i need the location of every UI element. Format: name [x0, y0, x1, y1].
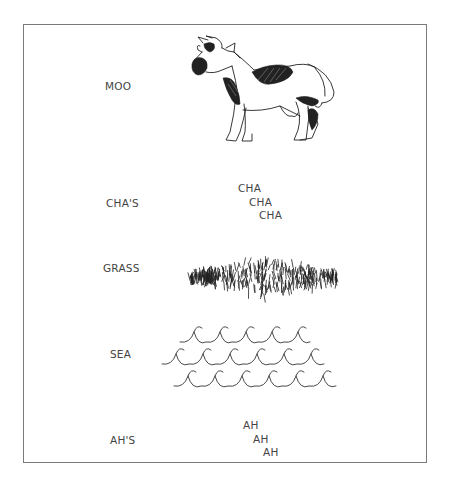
- cow-icon: [0, 0, 450, 488]
- ah-3: AH: [263, 446, 278, 458]
- ah-2: AH: [253, 433, 268, 445]
- grass-icon: [190, 250, 340, 302]
- waves-icon: [160, 322, 345, 394]
- label-ahs: AH'S: [110, 434, 135, 446]
- label-chas: CHA'S: [106, 197, 139, 209]
- cha-3: CHA: [259, 209, 282, 221]
- ah-1: AH: [243, 419, 258, 431]
- cha-1: CHA: [238, 182, 261, 194]
- label-sea: SEA: [110, 348, 131, 360]
- label-grass: GRASS: [103, 262, 140, 274]
- cha-2: CHA: [249, 196, 272, 208]
